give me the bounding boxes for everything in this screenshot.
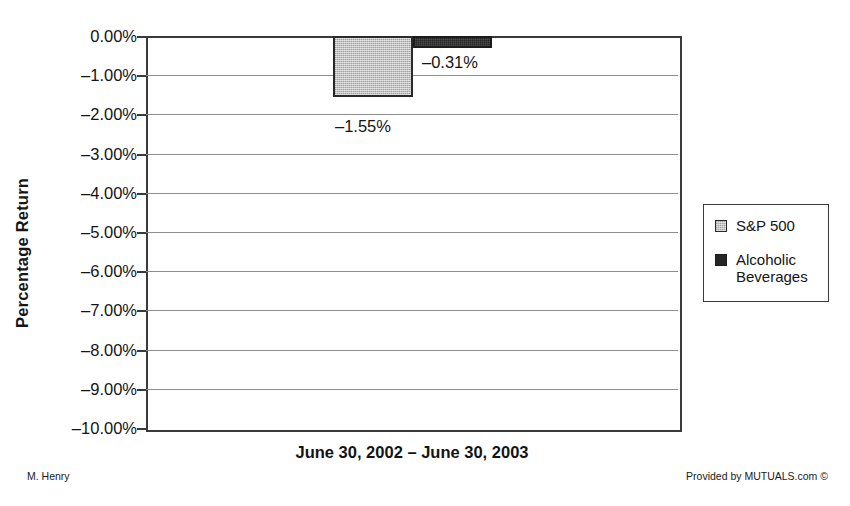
data-label-alcohol: –0.31% [422, 53, 478, 72]
y-axis-tick [137, 193, 146, 195]
legend-label-alcoholic-beverages: Alcoholic Beverages [736, 251, 828, 286]
legend-swatch-sp500-icon [715, 220, 727, 232]
y-axis-tick-labels: 0.00%–1.00%–2.00%–3.00%–4.00%–5.00%–6.00… [0, 36, 137, 428]
y-axis-tick-label: –1.00% [81, 66, 137, 85]
y-axis-tick-label: –6.00% [81, 262, 137, 281]
y-axis-tick [137, 36, 146, 38]
footer-credit-provider: Provided by MUTUALS.com © [686, 470, 828, 482]
bar-alcoholic-beverages [413, 36, 492, 48]
y-axis-tick-label: 0.00% [90, 27, 137, 46]
y-axis-tick-label: –2.00% [81, 105, 137, 124]
gridline [146, 271, 678, 272]
gridline [146, 389, 678, 390]
y-axis-tick [137, 428, 146, 430]
y-axis-tick [137, 350, 146, 352]
chart-legend: S&P 500 Alcoholic Beverages [703, 204, 829, 302]
y-axis-tick [137, 114, 146, 116]
y-axis-tick-label: –9.00% [81, 379, 137, 398]
legend-item-sp500: S&P 500 [715, 217, 828, 235]
gridline [146, 114, 678, 115]
bar-sp500 [333, 36, 413, 97]
plot-area [146, 36, 678, 428]
y-axis-tick-label: –7.00% [81, 301, 137, 320]
y-axis-tick-label: –10.00% [72, 419, 137, 438]
y-axis-tick-label: –8.00% [81, 340, 137, 359]
gridline [146, 154, 678, 155]
y-axis-tick [137, 232, 146, 234]
data-label-sp500: –1.55% [335, 117, 391, 136]
x-axis-title: June 30, 2002 – June 30, 2003 [146, 443, 678, 462]
y-axis-tick [137, 389, 146, 391]
y-axis-tick-label: –5.00% [81, 223, 137, 242]
gridline [146, 193, 678, 194]
footer-credit-author: M. Henry [27, 470, 70, 482]
y-axis-tick [137, 271, 146, 273]
gridline [146, 232, 678, 233]
y-axis-tick [137, 75, 146, 77]
gridline [146, 350, 678, 351]
legend-swatch-alcoholic-beverages-icon [715, 254, 727, 266]
chart-page: Percentage Return 0.00%–1.00%–2.00%–3.00… [0, 0, 850, 506]
y-axis-tick [137, 310, 146, 312]
gridline [146, 310, 678, 311]
legend-item-alcoholic-beverages: Alcoholic Beverages [715, 251, 828, 286]
legend-label-sp500: S&P 500 [736, 217, 795, 235]
y-axis-tick-label: –3.00% [81, 144, 137, 163]
y-axis-tick [137, 154, 146, 156]
y-axis-tick-label: –4.00% [81, 183, 137, 202]
